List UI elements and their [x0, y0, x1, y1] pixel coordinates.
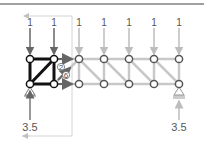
load-label: 1 — [101, 17, 107, 28]
load-label: 1 — [126, 17, 132, 28]
load-labels: 1 1 1 1 1 1 1 — [27, 17, 182, 28]
load-label: 1 — [27, 17, 33, 28]
svg-text:6: 6 — [64, 71, 69, 80]
load-arrows — [30, 28, 179, 54]
left-support — [24, 87, 36, 120]
right-reaction-label: 3.5 — [171, 121, 186, 133]
load-label: 1 — [151, 17, 157, 28]
load-label: 1 — [51, 17, 57, 28]
truss-faded-members — [54, 59, 179, 84]
truss-diagram: 2 6 1 1 1 1 1 1 1 3.5 3.5 — [0, 0, 204, 146]
truss-highlighted-panel — [30, 59, 54, 84]
load-label: 1 — [176, 17, 182, 28]
load-label: 1 — [76, 17, 82, 28]
left-reaction-label: 3.5 — [22, 121, 37, 133]
member-label-6: 6 — [62, 71, 69, 80]
right-support — [173, 87, 185, 120]
